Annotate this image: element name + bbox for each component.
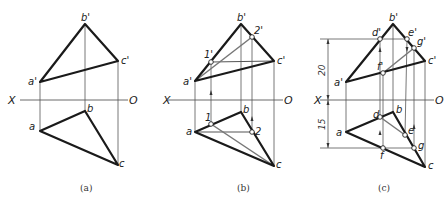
label-g-front: g' [417,36,426,47]
label-c-top: c [276,159,282,170]
label-c-front: c' [277,55,285,66]
dim-arrow-mid-lower [327,100,330,105]
axis-label-o: O [129,94,138,107]
label-1-front: 1' [204,49,213,60]
point-g-front [412,46,417,51]
label-d-top: d [373,109,380,120]
label-b-front: b' [237,12,246,23]
label-c-top: c [119,158,125,169]
label-c-front: c' [121,55,129,66]
label-1-top: 1 [205,112,211,123]
aux-line-top [211,124,274,166]
label-a-top: a [29,121,35,132]
caption-a: (a) [80,183,92,193]
label-d-front: d' [372,27,381,38]
label-b-top: b [396,104,402,115]
arrow-up-2 [251,116,254,121]
label-a-front: a' [183,76,192,87]
label-e-top: e [408,125,414,136]
axis-label-o: O [435,94,444,107]
point-2-top [250,130,255,135]
label-f-front: f' [377,61,383,72]
dim-arrow-mid-upper [327,95,330,100]
point-1-front [209,60,214,65]
front-view-triangle [40,24,118,82]
axis-label-x: X [313,94,322,107]
arrow-up-f [379,130,382,135]
axis-label-o: O [284,94,293,107]
arrow-down-e [406,47,409,52]
panel-a: X O a' b' c' a b c (a) [7,12,138,193]
aux-line-front [383,48,414,73]
projection-diagram: X O a' b' c' a b c (a) X O [0,0,446,205]
dim-arrow-bottom [327,143,330,148]
label-b-front: b' [81,12,90,23]
dim-arrow-top [327,39,330,44]
label-b-top: b [87,103,93,114]
panel-c: X O 20 15 [313,12,444,193]
label-a-top: a [336,127,342,138]
dimension-15: 15 [317,118,327,130]
label-a-front: a' [334,77,343,88]
caption-b: (b) [237,183,250,193]
panel-b: X O a' b' c' 1' 2' a b c 1 2 (b) [162,12,293,193]
axis-label-x: X [7,94,16,107]
caption-c: (c) [378,183,390,193]
point-g-top [412,146,417,151]
arrow-up-1 [210,90,213,95]
label-g-top: g [418,140,424,151]
label-c-front: c' [428,55,436,66]
arrow-up-d [379,47,382,52]
label-2-front: 2' [254,25,263,36]
label-e-front: e' [408,27,417,38]
point-e-top [403,133,408,138]
axis-label-x: X [162,94,171,107]
label-b-top: b [243,104,249,115]
label-a-front: a' [28,76,37,87]
label-2-top: 2 [255,126,261,137]
top-view-triangle [40,111,118,165]
label-b-front: b' [389,12,398,23]
label-f-top: f [380,150,385,161]
dimension-20: 20 [317,64,327,76]
label-c-top: c [428,160,434,171]
label-a-top: a [186,126,192,137]
